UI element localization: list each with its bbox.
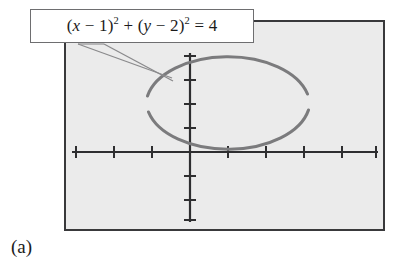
figure-caption: (a) [11,236,32,258]
figure-caption-row: (a) [0,236,407,258]
eqn-minus-two: − 2) [151,16,184,35]
equation-callout: (x − 1)2 + (y − 2)2 = 4 [30,9,254,43]
eqn-plus: + ( [119,16,144,35]
eqn-minus-one: − 1) [80,16,113,35]
equation-text: (x − 1)2 + (y − 2)2 = 4 [67,16,218,36]
figure-root: (x − 1)2 + (y − 2)2 = 4 (a) [0,0,407,270]
graph-screen-frame [64,20,385,231]
eqn-equals-four: = 4 [190,16,217,35]
